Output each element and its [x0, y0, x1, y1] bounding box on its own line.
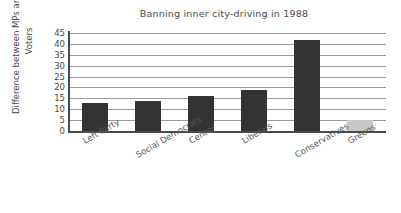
- bar: [135, 101, 161, 131]
- y-axis-tick-label: 20: [54, 82, 65, 92]
- chart-title: Banning inner city-driving in 1988: [60, 8, 388, 19]
- y-axis-tick-label: 5: [60, 115, 65, 125]
- bars-group: [69, 33, 386, 131]
- bar-chart: Banning inner city-driving in 1988 Diffe…: [0, 0, 401, 213]
- bar: [294, 40, 320, 131]
- plot-area: 051015202530354045: [69, 33, 386, 131]
- y-axis-title: Difference between MPs and Party Voters: [1, 0, 45, 111]
- y-axis-tick-label: 35: [54, 50, 65, 60]
- y-axis-tick-label: 45: [54, 28, 65, 38]
- y-axis-tick-label: 15: [54, 93, 65, 103]
- y-axis-tick-label: 40: [54, 39, 65, 49]
- y-axis-tick-label: 10: [54, 104, 65, 114]
- y-axis-title-line-1: Difference between MPs and Party: [10, 0, 23, 114]
- y-axis-tick-label: 25: [54, 72, 65, 82]
- y-axis-title-line-2: Voters: [23, 28, 36, 55]
- y-axis-tick-label: 30: [54, 61, 65, 71]
- y-axis-tick-label: 0: [60, 126, 65, 136]
